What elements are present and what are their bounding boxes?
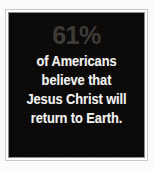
statement-text: of Americans believe that Jesus Christ w…	[9, 52, 144, 128]
card-panel: 61% of Americans believe that Jesus Chri…	[9, 13, 144, 157]
statistic-card-screenshot: 61% of Americans believe that Jesus Chri…	[0, 0, 154, 171]
headline-percentage: 61%	[9, 22, 144, 48]
card-inner-frame: 61% of Americans believe that Jesus Chri…	[8, 12, 145, 158]
card-outer-frame: 61% of Americans believe that Jesus Chri…	[5, 9, 148, 161]
statement-line: believe that	[14, 71, 138, 90]
statement-line: of Americans	[14, 52, 138, 71]
statement-line: Jesus Christ will	[14, 90, 138, 109]
statistic-block: 61% of Americans believe that Jesus Chri…	[9, 13, 144, 128]
statement-line: return to Earth.	[14, 109, 138, 128]
